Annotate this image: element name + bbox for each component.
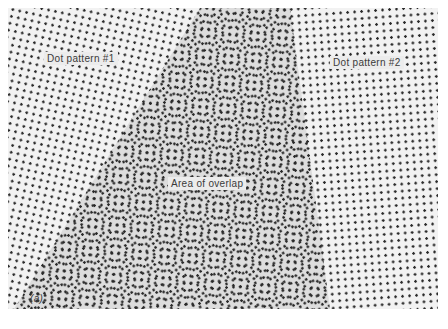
moire-figure: Dot pattern #1 Dot pattern #2 Area of ov… xyxy=(8,8,438,309)
label-area-of-overlap: Area of overlap xyxy=(168,177,246,190)
label-dot-pattern-1: Dot pattern #1 xyxy=(44,52,118,65)
panel-label: (a) xyxy=(27,292,46,305)
label-dot-pattern-2: Dot pattern #2 xyxy=(330,56,404,69)
